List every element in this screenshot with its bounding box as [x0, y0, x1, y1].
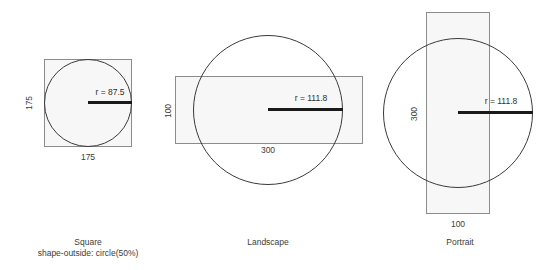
portrait-radius-line [458, 111, 533, 114]
figure-portrait: r = 111.8 100 300 Portrait [0, 0, 545, 270]
portrait-radius-label: r = 111.8 [485, 96, 518, 106]
portrait-caption-title: Portrait [446, 237, 473, 247]
diagram-canvas: r = 87.5 175 175 Square shape-outside: c… [0, 0, 545, 270]
portrait-caption: Portrait [446, 237, 473, 248]
portrait-width-label: 100 [451, 219, 465, 229]
portrait-height-label: 300 [409, 101, 419, 127]
